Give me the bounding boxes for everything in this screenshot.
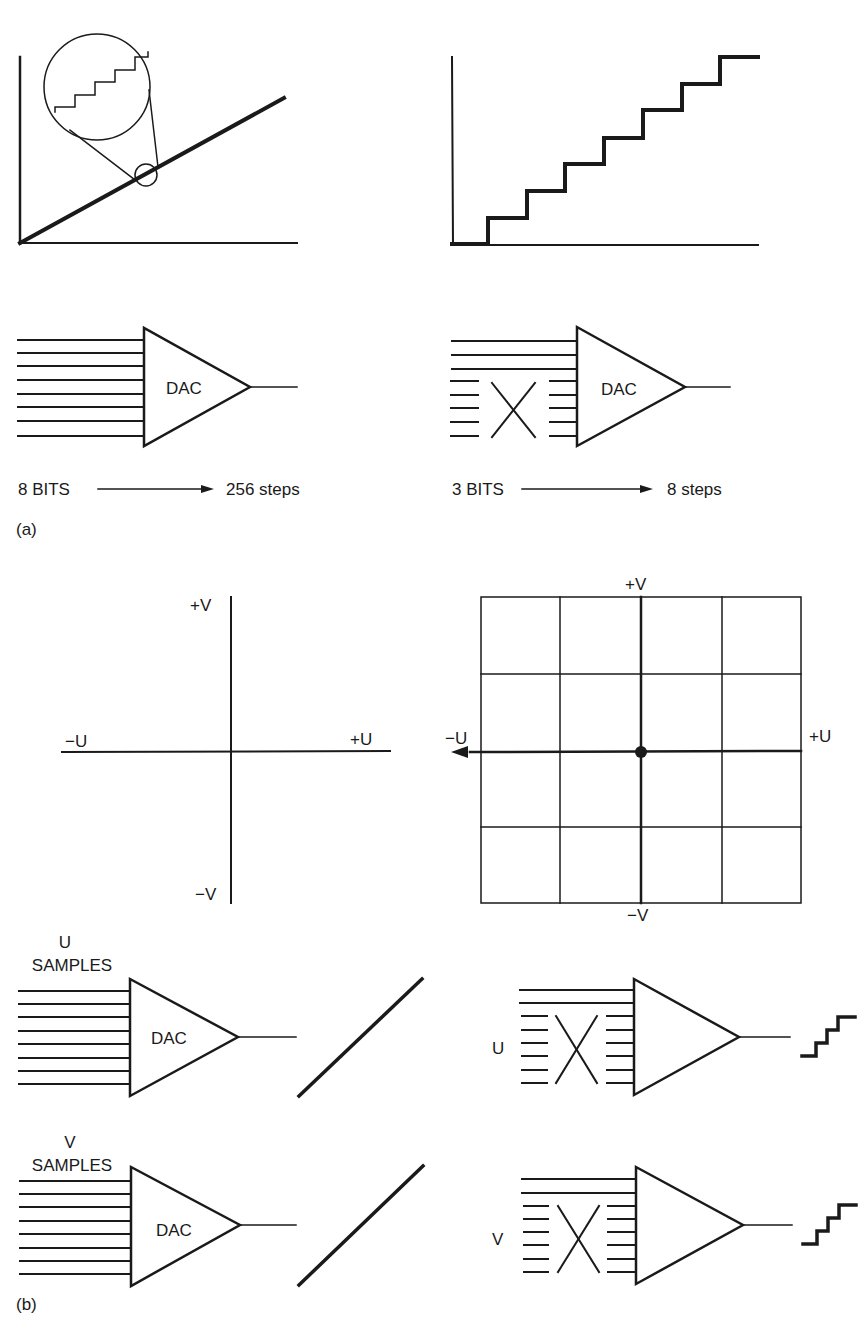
dropped-bit-stubs-left xyxy=(524,1206,548,1272)
dropped-bit-stubs-left xyxy=(522,1016,547,1083)
part-b-label: (b) xyxy=(16,1295,37,1314)
v-samples-title-line1: V xyxy=(64,1133,76,1152)
origin-dot-icon xyxy=(635,746,647,758)
active-bit-lines xyxy=(520,990,634,1003)
dac-u-full xyxy=(19,979,422,1096)
dropped-bit-stubs-right xyxy=(607,1016,634,1083)
active-bit-lines xyxy=(452,341,577,369)
dac-v-full xyxy=(20,1166,423,1286)
part-a-label: (a) xyxy=(16,520,37,539)
active-bit-lines xyxy=(522,1179,636,1193)
minus-u-label: −U xyxy=(65,732,87,751)
dropped-bit-stubs-left xyxy=(451,381,478,436)
magnifier-inset-circle xyxy=(44,34,150,140)
caption-8-bits: 8 BITS xyxy=(18,480,70,499)
y-axis xyxy=(452,57,453,245)
v-side-label: V xyxy=(492,1230,504,1249)
cross-out-x-icon xyxy=(558,1206,599,1272)
coarse-staircase-graph xyxy=(452,57,758,245)
input-bit-lines xyxy=(20,1181,131,1274)
u-samples-title-line2: SAMPLES xyxy=(32,956,112,975)
staircase-output-icon xyxy=(803,1205,856,1244)
ramp-output-icon xyxy=(299,1166,423,1285)
input-bit-lines xyxy=(18,340,145,436)
dac-label: DAC xyxy=(151,1029,187,1048)
arrow-head-icon xyxy=(640,485,653,493)
uv-axes-plain xyxy=(62,597,390,903)
minus-v-label: −V xyxy=(627,906,649,925)
dac-triangle xyxy=(634,979,739,1095)
minus-v-label: −V xyxy=(195,885,217,904)
magnifier-leader-left xyxy=(70,130,135,180)
caption-8-steps: 8 steps xyxy=(667,480,722,499)
dropped-bit-stubs-right xyxy=(608,1206,636,1272)
v-samples-title-line2: SAMPLES xyxy=(32,1156,112,1175)
dropped-bit-stubs-right xyxy=(550,381,577,436)
plus-u-label: +U xyxy=(809,727,831,746)
dac-8bit xyxy=(18,328,297,446)
dac-label: DAC xyxy=(156,1221,192,1240)
u-samples-title-line1: U xyxy=(59,933,71,952)
staircase-output-icon xyxy=(802,1017,855,1056)
uv-quantization-grid xyxy=(451,597,801,903)
cross-out-x-icon xyxy=(492,383,535,437)
caption-arrow-8bit xyxy=(98,485,214,493)
magnifier-leader-right xyxy=(149,90,158,167)
arrow-head-icon xyxy=(201,485,214,493)
dac-v-reduced xyxy=(522,1167,856,1284)
ramp-output-icon xyxy=(299,979,422,1096)
u-axis xyxy=(62,751,390,752)
minus-u-label: −U xyxy=(445,729,467,748)
caption-256-steps: 256 steps xyxy=(226,480,300,499)
fine-steps-icon xyxy=(55,52,148,112)
plus-u-label: +U xyxy=(350,730,372,749)
plus-v-label: +V xyxy=(625,575,647,594)
u-side-label: U xyxy=(492,1039,504,1058)
plus-v-label: +V xyxy=(190,596,212,615)
dac-label: DAC xyxy=(601,380,637,399)
figure-canvas: DAC DAC 8 BITS 256 steps 3 BITS 8 steps … xyxy=(0,0,866,1321)
dac-label: DAC xyxy=(166,379,202,398)
caption-3-bits: 3 BITS xyxy=(452,480,504,499)
caption-arrow-3bit xyxy=(522,485,653,493)
dac-triangle xyxy=(636,1167,743,1284)
dac-3bit xyxy=(451,327,730,446)
cross-out-x-icon xyxy=(556,1016,597,1083)
fine-ramp-graph xyxy=(20,34,297,243)
input-bit-lines xyxy=(19,991,130,1084)
dac-u-reduced xyxy=(520,979,855,1095)
staircase-line xyxy=(452,57,758,244)
